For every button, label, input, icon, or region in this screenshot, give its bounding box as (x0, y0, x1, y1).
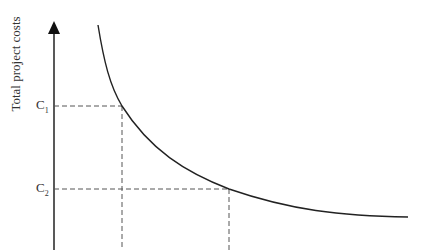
y-axis-arrow-icon (48, 21, 60, 34)
c1-tick-label: C1 (36, 97, 49, 115)
y-axis-label: Total project costs (8, 12, 24, 116)
c2-tick-label: C2 (36, 180, 49, 198)
cost-curve-diagram (0, 0, 433, 250)
cost-curve (98, 25, 408, 217)
